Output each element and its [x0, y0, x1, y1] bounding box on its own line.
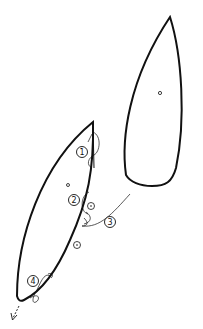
mainsail-outline — [125, 17, 182, 186]
callout-4-label: 4 — [30, 277, 35, 286]
jib-grommet — [67, 184, 70, 187]
loop-1-small — [88, 134, 92, 142]
callout-3-label: 3 — [107, 218, 112, 227]
mainsail — [125, 17, 182, 186]
callout-2: 2 — [69, 195, 80, 206]
callout-1: 1 — [77, 147, 88, 158]
callout-4: 4 — [28, 276, 39, 287]
mainsail-grommet — [158, 91, 161, 94]
sail-diagram: 1 2 3 4 — [0, 0, 203, 329]
eyelet-lower-dot — [76, 244, 78, 246]
eyelet-upper-dot — [90, 205, 92, 207]
direction-arrow-icon — [11, 306, 19, 320]
callout-3: 3 — [105, 217, 116, 228]
callout-2-label: 2 — [71, 196, 76, 205]
callout-1-label: 1 — [79, 148, 84, 157]
